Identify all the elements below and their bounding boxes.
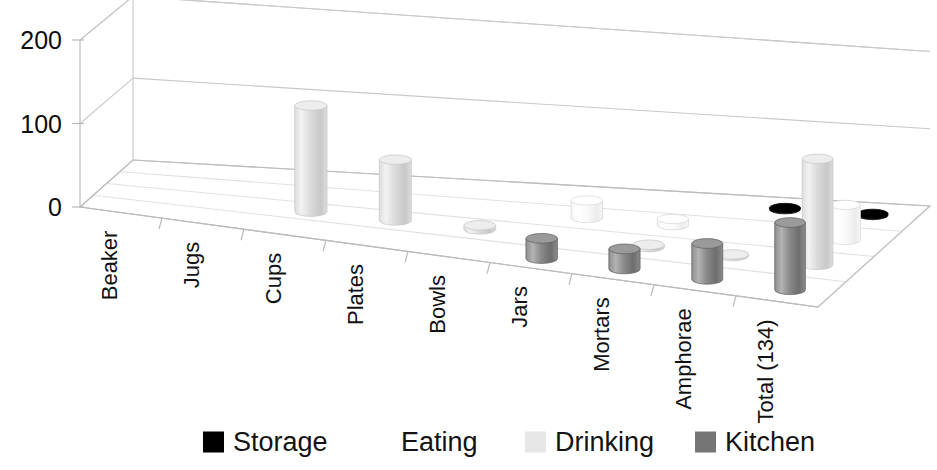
bar-kitchen-total-134 <box>775 218 806 295</box>
chart-canvas: 0100200 BeakerJugsCupsPlatesBowlsJarsMor… <box>0 0 937 470</box>
bar-drinking-total-134 <box>802 154 833 270</box>
bar-eating-mortars <box>657 214 688 230</box>
legend-item-kitchen[interactable]: Kitchen <box>695 427 815 457</box>
legend-item-drinking[interactable]: Drinking <box>525 427 654 457</box>
x-axis-category-label: Total (134) <box>753 319 778 423</box>
x-axis-labels: BeakerJugsCupsPlatesBowlsJarsMortarsAmph… <box>97 231 778 424</box>
eating-swatch <box>371 432 392 453</box>
drinking-swatch <box>525 432 546 453</box>
y-axis-labels: 0100200 <box>20 26 62 221</box>
chart-walls <box>80 0 930 160</box>
x-axis-category-label: Amphorae <box>671 308 696 410</box>
x-axis-category-label: Plates <box>343 264 368 325</box>
x-axis-category-label: Cups <box>261 253 286 304</box>
legend-item-eating[interactable]: Eating <box>371 427 478 457</box>
y-axis-tick-label: 0 <box>48 193 62 221</box>
y-axis-tick-label: 100 <box>20 110 62 138</box>
storage-swatch <box>203 432 224 453</box>
x-axis-category-label: Jugs <box>179 242 204 288</box>
x-axis-category-label: Beaker <box>97 231 122 301</box>
bar-storage-amphorae <box>769 203 800 214</box>
kitchen-swatch <box>695 432 716 453</box>
legend-label: Kitchen <box>725 427 815 457</box>
legend-item-storage[interactable]: Storage <box>203 427 328 457</box>
bar-drinking-cups <box>295 101 327 217</box>
bars-layer <box>295 101 888 295</box>
x-axis-category-label: Mortars <box>589 297 614 372</box>
chart-3d-bar: 0100200 BeakerJugsCupsPlatesBowlsJarsMor… <box>0 0 937 470</box>
bar-kitchen-mortars <box>609 244 640 274</box>
bar-eating-total-134 <box>830 200 861 244</box>
bar-eating-jars <box>571 196 603 223</box>
bar-kitchen-amphorae <box>692 239 723 285</box>
bar-kitchen-jars <box>526 233 558 263</box>
x-axis-category-label: Jars <box>507 286 532 328</box>
bar-storage-total-134 <box>857 209 888 219</box>
legend-label: Storage <box>233 427 328 457</box>
bar-drinking-plates <box>379 155 411 225</box>
x-axis-category-label: Bowls <box>425 275 450 334</box>
legend-label: Eating <box>401 427 478 457</box>
bar-drinking-bowls <box>464 221 496 235</box>
chart-legend: StorageEatingDrinkingKitchen <box>203 427 815 457</box>
y-axis-tick-label: 200 <box>20 26 62 54</box>
legend-label: Drinking <box>555 427 654 457</box>
